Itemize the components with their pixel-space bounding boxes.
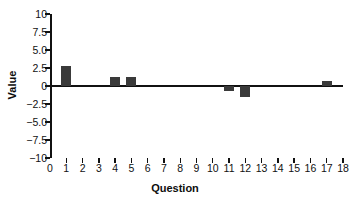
y-axis-tick-label: 2.5 bbox=[17, 62, 47, 74]
bar bbox=[322, 81, 332, 86]
y-axis-tick bbox=[45, 139, 50, 140]
bar bbox=[126, 77, 136, 86]
x-axis-tick-label: 13 bbox=[256, 162, 268, 174]
y-axis-tick-label: 10 bbox=[17, 8, 47, 20]
x-axis-tick-label: 12 bbox=[239, 162, 251, 174]
bar bbox=[61, 66, 71, 86]
y-axis-tick bbox=[45, 31, 50, 32]
x-axis-tick-label: 16 bbox=[305, 162, 317, 174]
x-axis-tick-label: 10 bbox=[207, 162, 219, 174]
x-axis-tick-label: 6 bbox=[145, 162, 151, 174]
x-axis-tick-label: 15 bbox=[288, 162, 300, 174]
bar-chart: Value 107.55.02.50−2.5−5.0−7.5−10 012345… bbox=[0, 0, 350, 204]
y-axis-tick bbox=[45, 85, 50, 86]
x-axis-tick-label: 7 bbox=[161, 162, 167, 174]
x-axis-tick-label: 3 bbox=[96, 162, 102, 174]
y-axis-tick-label: −2.5 bbox=[17, 98, 47, 110]
plot-area bbox=[50, 14, 343, 158]
y-axis-tick bbox=[45, 67, 50, 68]
x-axis-tick-label: 2 bbox=[80, 162, 86, 174]
y-axis-tick bbox=[45, 103, 50, 104]
y-axis-tick-label: −7.5 bbox=[17, 134, 47, 146]
y-axis-tick-label: 7.5 bbox=[17, 26, 47, 38]
x-axis-tick-label: 14 bbox=[272, 162, 284, 174]
y-axis-tick bbox=[45, 121, 50, 122]
bar bbox=[224, 86, 234, 91]
x-axis-tick-labels: 0123456789101112131415161718 bbox=[0, 162, 350, 178]
x-axis-tick-label: 5 bbox=[128, 162, 134, 174]
x-axis-tick-label: 9 bbox=[194, 162, 200, 174]
x-axis-title: Question bbox=[0, 182, 350, 194]
x-axis-tick-label: 8 bbox=[177, 162, 183, 174]
y-axis-tick bbox=[45, 13, 50, 14]
x-axis-tick-label: 1 bbox=[63, 162, 69, 174]
bar bbox=[110, 77, 120, 86]
zero-baseline bbox=[50, 85, 343, 87]
x-axis-tick-label: 4 bbox=[112, 162, 118, 174]
y-axis-tick-label: 0 bbox=[17, 80, 47, 92]
x-axis-tick-label: 18 bbox=[337, 162, 349, 174]
x-axis-tick-label: 17 bbox=[321, 162, 333, 174]
x-axis-tick-label: 0 bbox=[47, 162, 53, 174]
bar bbox=[240, 86, 250, 97]
y-axis-tick bbox=[45, 157, 50, 158]
y-axis-tick bbox=[45, 49, 50, 50]
x-axis-tick-label: 11 bbox=[224, 162, 235, 174]
y-axis-tick-label: 5.0 bbox=[17, 44, 47, 56]
y-axis-tick-label: −5.0 bbox=[17, 116, 47, 128]
